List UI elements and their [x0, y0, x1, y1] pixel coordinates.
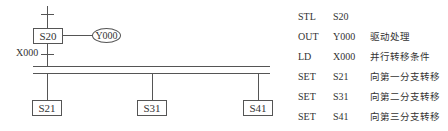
instruction: SET	[298, 69, 316, 85]
instruction: LD	[298, 49, 311, 65]
operand: Y000	[333, 29, 355, 45]
transition-tick-x000	[41, 54, 54, 55]
operand: S20	[333, 9, 349, 25]
branch-line-2	[152, 73, 153, 100]
operand: S41	[333, 109, 349, 125]
operand: S21	[333, 69, 349, 85]
comment: 向第一分支转移	[370, 69, 440, 85]
comment: 驱动处理	[370, 29, 410, 45]
comment: 并行转移条件	[370, 49, 430, 65]
operand: X000	[333, 49, 355, 65]
comment: 向第三分支转移	[370, 109, 440, 125]
output-connector-line	[63, 35, 93, 36]
parallel-branch-line-top	[33, 66, 270, 67]
entry-transition-tick	[41, 14, 54, 15]
transition-label-x000: X000	[16, 47, 38, 58]
comment: 向第二分支转移	[370, 89, 440, 105]
branch-line-1	[47, 73, 48, 100]
instruction: STL	[298, 9, 316, 25]
step-s20: S20	[33, 28, 63, 44]
branch-line-3	[258, 73, 259, 100]
operand: S31	[333, 89, 349, 105]
output-coil-y000: Y000	[92, 28, 121, 43]
instruction: OUT	[298, 29, 319, 45]
step-s31: S31	[137, 100, 167, 116]
instruction: SET	[298, 109, 316, 125]
step-s41: S41	[243, 100, 273, 116]
step-s21: S21	[32, 100, 62, 116]
instruction: SET	[298, 89, 316, 105]
